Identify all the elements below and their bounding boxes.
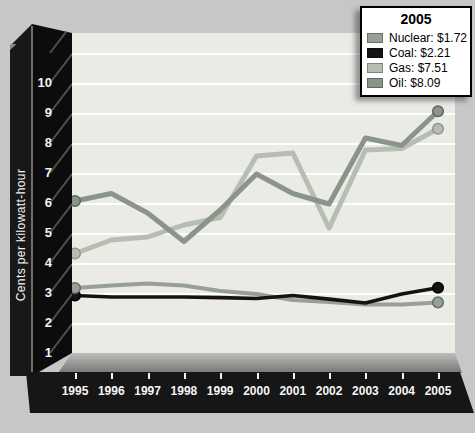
legend-label-coal: Coal: $2.21 (389, 46, 450, 60)
y-axis-scale-column: 012345678910 (32, 24, 72, 376)
y-tick-label-5: 5 (32, 225, 52, 241)
y-tick-4 (50, 234, 72, 263)
y-tick-9 (50, 84, 72, 113)
legend-box: 2005 Nuclear: $1.72 Coal: $2.21 Gas: $7.… (360, 6, 472, 97)
y-tick-5 (50, 204, 72, 233)
y-tick-label-6: 6 (32, 195, 52, 211)
x-tick-2004 (402, 373, 404, 379)
y-tick-1 (50, 324, 72, 353)
x-tick-label-2004: 2004 (382, 384, 422, 398)
x-axis-band: 1995199619971998199920002001200220032004… (22, 372, 474, 413)
x-tick-label-2000: 2000 (237, 384, 277, 398)
y-axis-bevel (10, 44, 32, 50)
y-tick-label-7: 7 (32, 165, 52, 181)
y-axis-title: Cents per kilowatt-hour (14, 169, 28, 302)
x-tick-1996 (111, 373, 113, 379)
legend-entry-oil: Oil: $8.09 (367, 75, 465, 90)
y-tick-2 (50, 294, 72, 323)
y-tick-11 (50, 24, 72, 53)
x-tick-label-2001: 2001 (273, 384, 313, 398)
series-marker-oil-2005 (433, 106, 444, 117)
x-tick-1999 (220, 373, 222, 379)
y-tick-10 (50, 54, 72, 83)
legend-swatch-gas (367, 63, 383, 73)
x-tick-2005 (438, 373, 440, 379)
x-tick-1997 (148, 373, 150, 379)
y-tick-8 (50, 114, 72, 143)
legend-title: 2005 (367, 11, 465, 27)
x-tick-2003 (365, 373, 367, 379)
y-tick-7 (50, 144, 72, 173)
x-tick-2001 (293, 373, 295, 379)
y-axis-3d-bar: Cents per kilowatt-hour (10, 24, 32, 376)
x-tick-label-2005: 2005 (418, 384, 458, 398)
y-tick-6 (50, 174, 72, 203)
x-tick-1995 (75, 373, 77, 379)
y-tick-label-9: 9 (32, 105, 52, 121)
legend-label-oil: Oil: $8.09 (389, 76, 440, 90)
series-marker-gas-1995 (72, 248, 80, 259)
legend-swatch-nuclear (367, 33, 383, 43)
y-tick-label-4: 4 (32, 255, 52, 271)
y-tick-label-10: 10 (32, 75, 52, 91)
y-tick-3 (50, 264, 72, 293)
x-tick-2000 (257, 373, 259, 379)
x-axis-3d-ledge (58, 353, 462, 373)
x-tick-2002 (329, 373, 331, 379)
x-tick-label-1995: 1995 (55, 384, 95, 398)
series-marker-nuclear-2005 (433, 297, 444, 308)
series-marker-gas-2005 (433, 123, 444, 134)
y-tick-label-8: 8 (32, 135, 52, 151)
legend-label-nuclear: Nuclear: $1.72 (389, 31, 467, 45)
legend-swatch-oil (367, 78, 383, 88)
y-tick-label-2: 2 (32, 315, 52, 331)
x-tick-label-2002: 2002 (309, 384, 349, 398)
x-tick-label-1998: 1998 (164, 384, 204, 398)
x-tick-label-2003: 2003 (345, 384, 385, 398)
x-tick-label-1997: 1997 (128, 384, 168, 398)
page: { "y_axis": { "label": "Cents per kilowa… (0, 0, 475, 433)
series-marker-coal-2005 (433, 282, 444, 293)
y-axis-edge-highlight (31, 26, 33, 376)
y-tick-label-1: 1 (32, 345, 52, 361)
series-marker-oil-1995 (72, 196, 80, 207)
legend-entry-gas: Gas: $7.51 (367, 60, 465, 75)
legend-entry-nuclear: Nuclear: $1.72 (367, 30, 465, 45)
y-tick-label-3: 3 (32, 285, 52, 301)
legend-entry-coal: Coal: $2.21 (367, 45, 465, 60)
legend-label-gas: Gas: $7.51 (389, 61, 448, 75)
series-marker-nuclear-1995 (72, 283, 80, 294)
x-tick-label-1996: 1996 (91, 384, 131, 398)
legend-swatch-coal (367, 48, 383, 58)
series-line-oil (75, 111, 438, 241)
x-tick-1998 (184, 373, 186, 379)
x-tick-label-1999: 1999 (200, 384, 240, 398)
